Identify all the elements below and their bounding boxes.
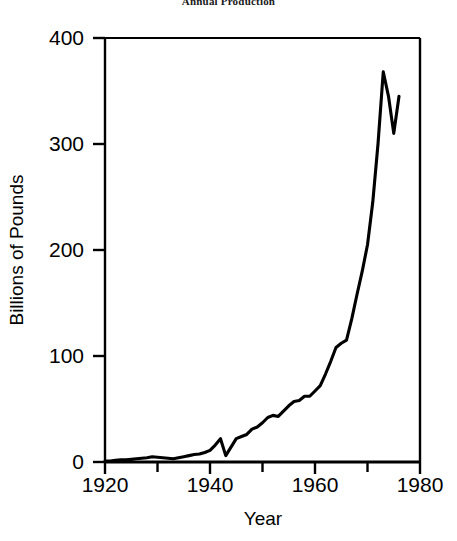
plot-frame <box>105 38 420 462</box>
y-axis-title: Billions of Pounds <box>6 38 32 462</box>
y-axis-ticks <box>93 38 105 462</box>
x-axis-title: Year <box>105 508 421 530</box>
x-tick-1960: 1960 <box>270 474 360 495</box>
data-series-line <box>105 72 399 461</box>
x-axis-ticks <box>105 462 420 474</box>
x-tick-1980: 1980 <box>375 474 457 495</box>
chart-figure: Annual Production <box>0 0 457 541</box>
x-tick-1940: 1940 <box>165 474 255 495</box>
x-tick-1920: 1920 <box>60 474 150 495</box>
